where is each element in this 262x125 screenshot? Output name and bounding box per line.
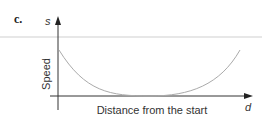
y-axis-label: Speed	[40, 58, 52, 90]
x-axis-arrow-icon	[244, 93, 253, 99]
x-axis-symbol: d	[245, 101, 252, 113]
speed-distance-graph: s d Speed Distance from the start	[0, 0, 262, 125]
y-axis-symbol: s	[45, 15, 51, 27]
speed-curve	[59, 50, 240, 96]
x-axis-label: Distance from the start	[97, 104, 208, 116]
y-axis-arrow-icon	[55, 16, 61, 25]
